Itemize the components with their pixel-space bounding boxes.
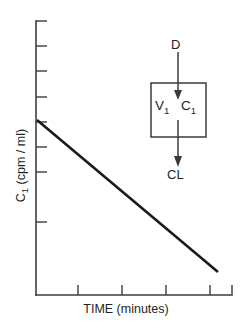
figure-container: C1 (cpm / ml) TIME (minutes) D CL V1 C1	[0, 0, 252, 326]
y-axis-label: C1 (cpm / ml)	[15, 106, 30, 226]
plot-svg	[0, 0, 252, 326]
volume-subscript: 1	[164, 105, 169, 116]
y-axis-label-units: (cpm / ml)	[14, 129, 28, 188]
volume-label: V1	[155, 99, 169, 115]
concentration-subscript: 1	[191, 105, 196, 116]
output-arrow	[174, 120, 182, 167]
concentration-symbol: C	[181, 98, 191, 113]
concentration-label: C1	[181, 99, 196, 115]
data-series-line	[37, 120, 218, 272]
y-axis-label-symbol: C	[14, 193, 28, 202]
input-arrow	[174, 52, 182, 100]
y-axis-label-subscript: 1	[19, 188, 30, 193]
x-axis-ticks	[78, 285, 232, 295]
dose-label: D	[171, 38, 180, 51]
x-axis-label: TIME (minutes)	[0, 303, 252, 316]
volume-symbol: V	[155, 98, 164, 113]
clearance-label: CL	[167, 168, 184, 181]
